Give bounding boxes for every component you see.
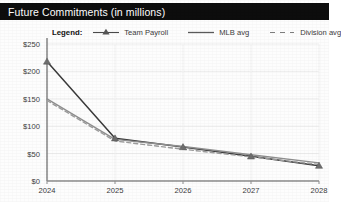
- y-axis-tick-label: $100: [14, 122, 40, 131]
- legend-label: Legend:: [52, 28, 82, 37]
- legend-text-division-avg: Division avg: [300, 28, 341, 37]
- y-axis-tick-label: $150: [14, 94, 40, 103]
- y-axis-tick-label: $50: [14, 149, 40, 158]
- page-title: Future Commitments (in millions): [0, 6, 165, 18]
- data-point-marker: [247, 153, 254, 159]
- y-axis-tick-label: $200: [14, 67, 40, 76]
- legend-item-division-avg: Division avg: [269, 28, 341, 37]
- legend-item-team-payroll: Team Payroll: [93, 28, 168, 37]
- x-axis-tick-label: 2026: [166, 186, 200, 195]
- data-point-marker: [179, 144, 186, 150]
- x-axis-tick-label: 2025: [98, 186, 132, 195]
- legend-item-mlb-avg: MLB avg: [188, 28, 249, 37]
- data-point-marker: [43, 58, 50, 64]
- x-axis-tick-label: 2027: [234, 186, 268, 195]
- legend-marker-triangle-icon: [93, 28, 119, 37]
- legend-text-team-payroll: Team Payroll: [124, 28, 168, 37]
- legend-marker-solid-line-icon: [188, 28, 214, 37]
- legend-marker-dashed-line-icon: [269, 28, 295, 37]
- y-axis-tick-label: $250: [14, 40, 40, 49]
- chart-title-bar: Future Commitments (in millions): [0, 3, 329, 20]
- data-point-marker: [315, 162, 322, 168]
- x-axis-tick-label: 2024: [30, 186, 64, 195]
- y-axis-tick-label: $0: [14, 177, 40, 186]
- legend-text-mlb-avg: MLB avg: [219, 28, 249, 37]
- data-point-marker: [111, 135, 118, 141]
- chart-legend: Legend: Team Payroll MLB avg: [52, 26, 341, 39]
- x-axis-tick-label: 2028: [302, 186, 336, 195]
